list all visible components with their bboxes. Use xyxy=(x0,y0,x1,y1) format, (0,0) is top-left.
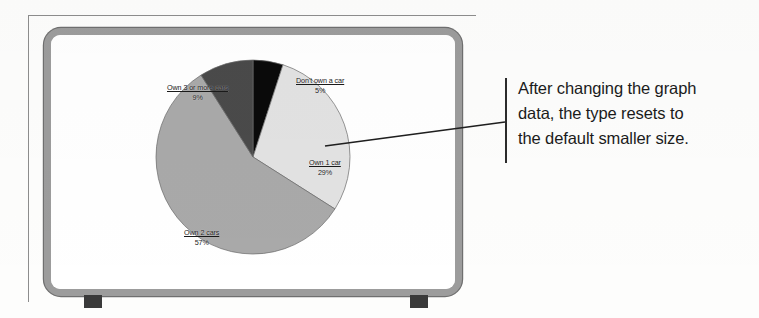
callout-line: After changing the graph xyxy=(518,76,750,101)
monitor-foot-left xyxy=(84,295,102,308)
figure-page: Don't own a car 5% Own 1 car 29% Own 2 c… xyxy=(0,0,759,318)
callout-text: After changing the graph data, the type … xyxy=(518,76,750,151)
monitor-foot-right xyxy=(410,295,428,308)
monitor-screen xyxy=(51,35,455,289)
callout-bar xyxy=(505,78,507,163)
callout-line: data, the type resets to xyxy=(518,101,750,126)
figure-border-top xyxy=(28,15,476,16)
figure-border-left xyxy=(28,15,29,302)
monitor-illustration xyxy=(44,28,462,296)
callout-line: the default smaller size. xyxy=(518,126,750,151)
